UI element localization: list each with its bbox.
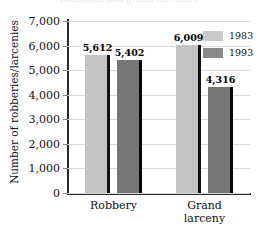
legend-label-1993: 1993 xyxy=(229,47,253,58)
bar-value-label: 6,009 xyxy=(174,32,204,43)
y-axis-tick-label: 2,000 xyxy=(29,137,61,150)
y-axis-tick xyxy=(63,21,68,22)
y-axis-title: Number of robberies/larcenies xyxy=(8,2,20,202)
gridline xyxy=(68,193,250,194)
y-axis-tick xyxy=(63,70,68,71)
y-axis-tick xyxy=(63,46,68,47)
x-axis-category-label-line: larceny xyxy=(184,212,225,225)
y-axis-tick-label: 5,000 xyxy=(29,64,61,77)
gridline xyxy=(68,21,250,22)
legend-label-1983: 1983 xyxy=(229,30,253,41)
y-axis-tick-label: 1,000 xyxy=(29,162,61,175)
y-axis-tick xyxy=(63,144,68,145)
cropped-chart-title: robberies and grand larcenies xyxy=(60,0,210,4)
bar-chart: robberies and grand larcenies Number of … xyxy=(0,0,267,231)
bar-grand-larceny-1993 xyxy=(208,87,233,193)
bar-robbery-1983 xyxy=(85,55,110,193)
x-axis-category-label: Robbery xyxy=(90,199,137,212)
legend: 1983 1993 xyxy=(203,29,265,63)
y-axis-tick xyxy=(63,119,68,120)
y-axis-tick-label: 4,000 xyxy=(29,88,61,101)
y-axis-tick xyxy=(63,168,68,169)
x-axis-category-label-line: Robbery xyxy=(90,199,137,212)
bar-value-label: 5,612 xyxy=(83,42,113,53)
y-axis-tick-label: 7,000 xyxy=(29,15,61,28)
legend-item-1983: 1983 xyxy=(203,29,265,42)
y-axis-tick xyxy=(63,193,68,194)
y-axis-tick xyxy=(63,95,68,96)
x-axis-category-label: Grandlarceny xyxy=(184,199,225,225)
legend-swatch-icon-1993 xyxy=(203,48,223,58)
y-axis-tick-label: 6,000 xyxy=(29,39,61,52)
bar-value-label: 4,316 xyxy=(206,74,236,85)
legend-item-1993: 1993 xyxy=(203,46,265,59)
bar-value-label: 5,402 xyxy=(115,47,145,58)
x-axis-category-label-line: Grand xyxy=(184,199,225,212)
bar-robbery-1993 xyxy=(117,60,142,193)
legend-swatch-icon-1983 xyxy=(203,31,223,41)
bar-grand-larceny-1983 xyxy=(176,45,201,193)
y-axis-tick-label: 0 xyxy=(53,187,60,200)
y-axis-tick-label: 3,000 xyxy=(29,113,61,126)
